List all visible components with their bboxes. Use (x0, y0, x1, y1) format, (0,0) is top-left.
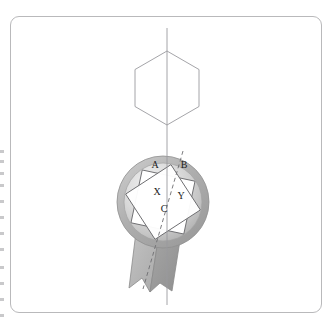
figure-canvas: A B X Y C (0, 0, 334, 327)
label-B: B (181, 159, 188, 170)
label-X: X (153, 186, 161, 197)
label-Y: Y (177, 190, 184, 201)
label-A: A (151, 159, 159, 170)
label-C: C (161, 203, 168, 214)
diagram-artwork: A B X Y C (0, 0, 334, 327)
